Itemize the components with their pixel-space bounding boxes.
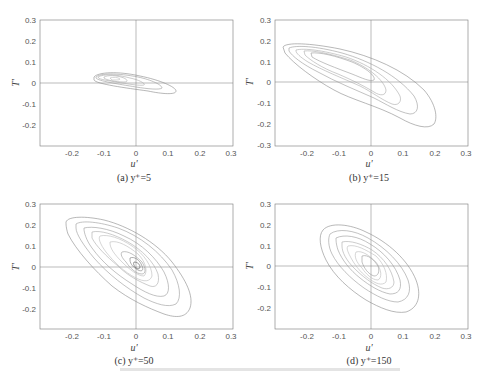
svg-text:-0.3: -0.3 xyxy=(257,141,271,150)
svg-text:-0.1: -0.1 xyxy=(257,99,271,108)
svg-text:-0.1: -0.1 xyxy=(22,284,36,293)
svg-text:0.1: 0.1 xyxy=(397,332,409,341)
svg-text:0.3: 0.3 xyxy=(460,332,472,341)
svg-text:-0.2: -0.2 xyxy=(257,120,271,129)
panel-a: 0.3 0.2 0.1 0 -0.1 -0.2 -0.2 -0.1 0 0.1 … xyxy=(10,16,237,184)
x-ticks: -0.2 -0.1 0 0.1 0.2 0.3 xyxy=(65,149,237,158)
figure: 0.3 0.2 0.1 0 -0.1 -0.2 -0.2 -0.1 0 0.1 … xyxy=(0,0,485,380)
svg-text:0.1: 0.1 xyxy=(260,242,272,251)
svg-text:0.1: 0.1 xyxy=(397,149,409,158)
svg-text:0: 0 xyxy=(369,149,374,158)
x-axis-label: u' xyxy=(365,342,373,353)
panel-b: 0.3 0.2 0.1 0 -0.1 -0.2 -0.3 -0.2 -0.1 0… xyxy=(244,16,472,184)
svg-text:0.2: 0.2 xyxy=(25,37,37,46)
caption-b: (b) y⁺=15 xyxy=(349,172,389,184)
panel-c: 0.3 0.2 0.1 0 -0.1 -0.2 -0.2 -0.1 0 0.1 … xyxy=(10,200,237,367)
svg-text:-0.2: -0.2 xyxy=(300,149,314,158)
svg-text:0.1: 0.1 xyxy=(25,58,37,67)
y-axis-label: T' xyxy=(244,261,255,270)
svg-text:0.2: 0.2 xyxy=(429,332,441,341)
svg-text:0.3: 0.3 xyxy=(260,16,272,25)
svg-text:-0.2: -0.2 xyxy=(300,332,314,341)
y-ticks: 0.3 0.2 0.1 0 -0.1 -0.2 xyxy=(22,16,36,130)
svg-text:0.3: 0.3 xyxy=(260,200,272,209)
svg-text:-0.1: -0.1 xyxy=(97,332,111,341)
x-ticks: -0.2 -0.1 0 0.1 0.2 0.3 xyxy=(300,149,472,158)
svg-text:0.3: 0.3 xyxy=(25,200,37,209)
svg-text:-0.1: -0.1 xyxy=(22,100,36,109)
svg-text:0.2: 0.2 xyxy=(194,332,206,341)
svg-text:0.2: 0.2 xyxy=(429,149,441,158)
svg-text:0.2: 0.2 xyxy=(260,37,272,46)
svg-text:-0.2: -0.2 xyxy=(257,304,271,313)
svg-text:-0.1: -0.1 xyxy=(332,149,346,158)
svg-text:-0.2: -0.2 xyxy=(65,149,79,158)
y-ticks: 0.3 0.2 0.1 0 -0.1 -0.2 xyxy=(257,200,271,313)
contours-b xyxy=(283,44,436,127)
axes-frame xyxy=(275,204,468,329)
svg-text:0.3: 0.3 xyxy=(460,149,472,158)
y-axis-label: T' xyxy=(10,262,21,271)
svg-text:0.1: 0.1 xyxy=(260,58,272,67)
x-ticks: -0.2 -0.1 0 0.1 0.2 0.3 xyxy=(300,332,472,341)
x-axis-label: u' xyxy=(130,158,138,169)
svg-text:0: 0 xyxy=(134,332,139,341)
y-axis-label: T' xyxy=(10,78,21,87)
svg-text:0.2: 0.2 xyxy=(194,149,206,158)
axes-frame xyxy=(275,20,468,146)
svg-text:-0.2: -0.2 xyxy=(65,332,79,341)
caption-c: (c) y⁺=50 xyxy=(114,355,153,367)
svg-text:-0.1: -0.1 xyxy=(257,283,271,292)
svg-text:-0.2: -0.2 xyxy=(22,305,36,314)
svg-text:0.1: 0.1 xyxy=(162,332,174,341)
svg-text:0.2: 0.2 xyxy=(25,221,37,230)
svg-text:0: 0 xyxy=(267,78,272,87)
contours-d xyxy=(320,225,419,312)
panel-d: 0.3 0.2 0.1 0 -0.1 -0.2 -0.2 -0.1 0 0.1 … xyxy=(244,200,472,367)
svg-text:0: 0 xyxy=(369,332,374,341)
caption-d: (d) y⁺=150 xyxy=(347,355,392,367)
svg-text:0.3: 0.3 xyxy=(25,16,37,25)
svg-text:0.3: 0.3 xyxy=(225,149,237,158)
y-ticks: 0.3 0.2 0.1 0 -0.1 -0.2 -0.3 xyxy=(257,16,271,150)
svg-text:0: 0 xyxy=(32,263,37,272)
caption-a: (a) y⁺=5 xyxy=(117,172,151,184)
axes-frame xyxy=(40,204,233,329)
svg-text:0: 0 xyxy=(267,262,272,271)
svg-text:-0.1: -0.1 xyxy=(332,332,346,341)
x-ticks: -0.2 -0.1 0 0.1 0.2 0.3 xyxy=(65,332,237,341)
svg-text:-0.2: -0.2 xyxy=(22,121,36,130)
x-axis-label: u' xyxy=(365,158,373,169)
y-axis-label: T' xyxy=(244,77,255,86)
svg-text:0: 0 xyxy=(32,79,37,88)
svg-text:0.2: 0.2 xyxy=(260,221,272,230)
figure-caption-line xyxy=(120,368,400,371)
svg-text:0.3: 0.3 xyxy=(225,332,237,341)
svg-text:0.1: 0.1 xyxy=(162,149,174,158)
svg-text:0: 0 xyxy=(134,149,139,158)
x-axis-label: u' xyxy=(130,342,138,353)
svg-text:-0.1: -0.1 xyxy=(97,149,111,158)
svg-text:0.1: 0.1 xyxy=(25,242,37,251)
y-ticks: 0.3 0.2 0.1 0 -0.1 -0.2 xyxy=(22,200,36,314)
